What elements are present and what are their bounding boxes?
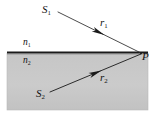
label-r1: r1 — [100, 17, 108, 30]
label-s1: S1 — [42, 4, 51, 17]
label-p: P — [142, 51, 149, 64]
label-r2: r2 — [100, 72, 108, 85]
optics-refraction-figure: S1 S2 r1 r2 P n1 n2 — [0, 0, 157, 121]
label-n1: n1 — [23, 38, 31, 49]
label-s2: S2 — [36, 88, 45, 101]
label-n2: n2 — [23, 56, 31, 67]
